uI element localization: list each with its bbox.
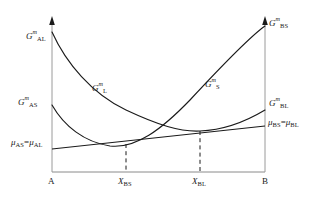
label-g-bl: GmBL <box>269 99 288 108</box>
liquid-free-energy-curve <box>52 32 265 131</box>
label-g-as: GmAS <box>18 98 37 107</box>
label-mu-a: μAS=μAL <box>11 138 43 147</box>
left-axis-arrowhead <box>49 16 55 25</box>
tick-label-x-bs: XBS <box>118 177 132 186</box>
label-g-solid: GmS <box>205 80 220 89</box>
label-mu-b: μBS=μBL <box>268 118 299 127</box>
right-axis-arrowhead <box>262 16 268 25</box>
solid-free-energy-curve <box>52 26 265 146</box>
axis-label-a: A <box>48 177 55 186</box>
label-g-bs: GmBS <box>269 19 288 28</box>
axis-label-b: B <box>262 177 268 186</box>
label-g-al: GmAL <box>26 32 46 41</box>
free-energy-composition-figure: GmAL GmAS GmBS GmBL GmL GmS μAS=μAL μBS=… <box>0 0 317 204</box>
label-g-liquid: GmL <box>92 84 107 93</box>
tick-label-x-bl: XBL <box>192 177 206 186</box>
